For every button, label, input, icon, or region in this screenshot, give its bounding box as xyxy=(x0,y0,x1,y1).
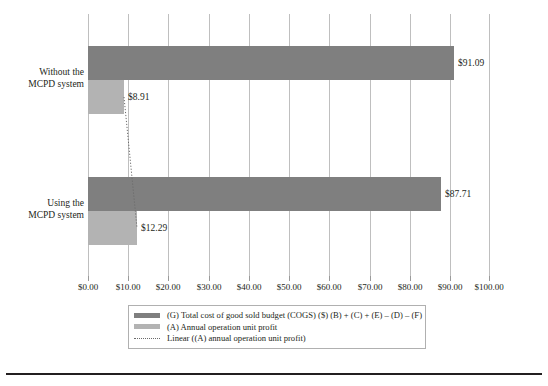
y-axis-label-line: Using the xyxy=(0,197,84,209)
x-tick-mark xyxy=(249,276,250,281)
data-label-profit-using-mcpd: $12.29 xyxy=(141,224,167,234)
x-tick-mark xyxy=(489,276,490,281)
x-tick-label-90: $90.00 xyxy=(438,283,463,292)
plot-area-wrapper: Without the MCPD system Using the MCPD s… xyxy=(0,0,548,300)
legend-label-profit: (A) Annual operation unit profit xyxy=(167,322,277,332)
legend-label-cogs: (G) Total cost of good sold budget (COGS… xyxy=(167,310,422,320)
y-axis-label-line: MCPD system xyxy=(0,78,84,90)
chart-figure: Without the MCPD system Using the MCPD s… xyxy=(0,0,548,386)
x-tick-mark xyxy=(128,276,129,281)
x-tick-label-50: $50.00 xyxy=(277,283,302,292)
legend-entry-trend[interactable]: Linear ((A) annual operation unit profit… xyxy=(134,333,420,344)
data-label-cogs-using-mcpd: $87.71 xyxy=(445,190,471,200)
chart-legend: (G) Total cost of good sold budget (COGS… xyxy=(128,305,426,349)
x-tick-label-0: $0.00 xyxy=(78,283,98,292)
x-tick-mark xyxy=(450,276,451,281)
x-tick-mark xyxy=(88,276,89,281)
x-tick-label-40: $40.00 xyxy=(237,283,262,292)
x-tick-mark xyxy=(168,276,169,281)
x-tick-mark xyxy=(410,276,411,281)
x-tick-label-80: $80.00 xyxy=(398,283,423,292)
legend-swatch-dotted-line-icon xyxy=(134,338,160,339)
legend-label-trend: Linear ((A) annual operation unit profit… xyxy=(167,333,306,343)
x-tick-label-60: $60.00 xyxy=(317,283,342,292)
x-tick-mark xyxy=(370,276,371,281)
x-tick-mark xyxy=(209,276,210,281)
legend-entry-cogs[interactable]: (G) Total cost of good sold budget (COGS… xyxy=(134,310,420,321)
data-label-profit-without-mcpd: $8.91 xyxy=(128,93,149,103)
bar-profit-using-mcpd[interactable] xyxy=(88,211,137,245)
x-tick-mark xyxy=(329,276,330,281)
x-tick-label-20: $20.00 xyxy=(156,283,181,292)
y-axis-label-line: Without the xyxy=(0,66,84,78)
bar-profit-without-mcpd[interactable] xyxy=(88,80,124,114)
legend-swatch-light-icon xyxy=(134,324,160,329)
y-axis-label-using-mcpd: Using the MCPD system xyxy=(0,197,84,221)
bar-group xyxy=(88,14,490,276)
bottom-divider xyxy=(6,373,542,375)
x-tick-label-70: $70.00 xyxy=(358,283,383,292)
bar-cogs-using-mcpd[interactable] xyxy=(88,177,441,211)
y-axis-label-without-mcpd: Without the MCPD system xyxy=(0,66,84,90)
x-tick-label-10: $10.00 xyxy=(116,283,141,292)
legend-entry-profit[interactable]: (A) Annual operation unit profit xyxy=(134,321,420,332)
x-tick-label-30: $30.00 xyxy=(197,283,222,292)
y-axis-label-line: MCPD system xyxy=(0,209,84,221)
plot-area: $91.09 $8.91 $87.71 $12.29 xyxy=(88,14,490,276)
x-tick-mark xyxy=(289,276,290,281)
bar-cogs-without-mcpd[interactable] xyxy=(88,46,454,80)
legend-swatch-dark-icon xyxy=(134,313,160,318)
x-axis: $0.00 $10.00 $20.00 $30.00 $40.00 $50.00… xyxy=(88,276,490,298)
data-label-cogs-without-mcpd: $91.09 xyxy=(458,59,484,69)
x-tick-label-100: $100.00 xyxy=(474,283,503,292)
